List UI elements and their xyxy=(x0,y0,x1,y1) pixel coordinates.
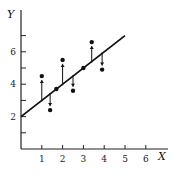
data-point xyxy=(81,66,85,70)
arrow-head-icon xyxy=(71,84,75,87)
x-tick-label: 3 xyxy=(81,154,87,164)
data-point xyxy=(54,87,58,91)
data-point xyxy=(60,58,64,62)
arrow-head-icon xyxy=(48,103,52,106)
x-tick-label: 4 xyxy=(101,154,107,164)
y-tick-label: 4 xyxy=(10,79,16,89)
arrow-head-icon xyxy=(100,63,104,66)
data-point xyxy=(90,40,94,44)
y-tick-label: 6 xyxy=(10,47,16,57)
data-point xyxy=(48,108,52,112)
data-point xyxy=(100,67,104,71)
arrow-head-icon xyxy=(61,64,65,67)
axis-tick-labels: 123456246 xyxy=(10,47,149,164)
arrow-head-icon xyxy=(90,46,94,49)
data-point xyxy=(71,88,75,92)
x-tick-label: 1 xyxy=(39,154,45,164)
data-point xyxy=(40,74,44,78)
arrow-head-icon xyxy=(40,80,44,83)
axis-ticks xyxy=(21,36,146,149)
x-axis-title: X xyxy=(157,150,167,163)
y-tick-label: 2 xyxy=(10,112,16,122)
x-tick-label: 5 xyxy=(122,154,128,164)
scatter-chart: 123456246 Y X xyxy=(0,0,178,175)
x-tick-label: 2 xyxy=(60,154,66,164)
y-axis-title: Y xyxy=(7,8,16,21)
x-tick-label: 6 xyxy=(143,154,149,164)
